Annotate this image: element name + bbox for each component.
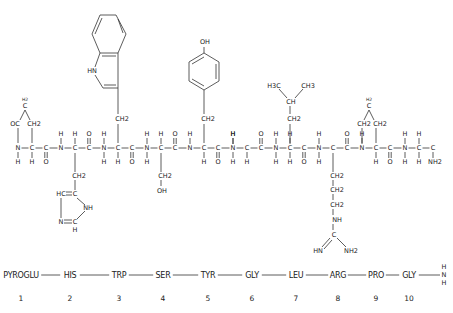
residue-ser: SER	[156, 271, 172, 280]
tyrosine-side-chain: CH2 OH	[189, 38, 219, 143]
ser-oh-label: OH	[157, 187, 167, 195]
arginine-side-chain: CH2 CH2 CH2 NH C HN NH2	[313, 153, 358, 255]
histidine-side-chain: CH2 HC C NH C H N	[56, 153, 93, 234]
backbone-atom-n: N	[102, 144, 107, 152]
hydrogen-atom: H	[274, 158, 279, 166]
backbone-atom-c: C	[331, 144, 336, 152]
pro-h2-label: H2	[366, 97, 372, 102]
tyr-oh-label: OH	[200, 38, 210, 46]
backbone-atom-n: N	[360, 144, 365, 152]
terminal-n: N	[442, 271, 447, 279]
hydrogen-atom: H	[188, 130, 193, 138]
arg-ch2-3-label: CH2	[330, 201, 344, 209]
terminal-h-bottom: H	[442, 279, 447, 287]
ser-ch2-label: CH2	[158, 172, 172, 180]
hydrogen-atom: H	[403, 130, 408, 138]
backbone-atom-c: C	[388, 144, 393, 152]
leu-ch2-label: CH2	[287, 115, 301, 123]
hydrogen-atom: H	[231, 130, 236, 138]
residue-number: 2	[68, 294, 73, 303]
peptide-structure-diagram: NCCNCCNCCNCCNCCNCCNCCNCCNCCNCCNH2HHHHHHH…	[0, 0, 453, 313]
backbone-atom-n: N	[317, 144, 322, 152]
pyroglu-ch2-label: CH2	[27, 120, 41, 128]
backbone-atom-c: C	[345, 144, 350, 152]
backbone-atom-n: N	[59, 144, 64, 152]
backbone-atom-c: C	[116, 144, 121, 152]
backbone-atom-c: C	[73, 144, 78, 152]
residue-arg: ARG	[330, 271, 346, 280]
leu-ch3-label: CH3	[301, 82, 315, 90]
pro-c-atom: C	[367, 102, 372, 110]
residue-number: 6	[250, 294, 255, 303]
hydrogen-atom: H	[274, 130, 279, 138]
hydrogen-atom: H	[102, 158, 107, 166]
leu-h3c-label: H3C	[267, 82, 281, 90]
c-terminal-amide: NH2	[428, 158, 442, 166]
hydrogen-atom: H	[102, 130, 107, 138]
hydrogen-atom: H	[145, 130, 150, 138]
arg-nh-label: NH	[332, 216, 342, 224]
backbone-atom-c: C	[245, 144, 250, 152]
residue-gly: GLY	[402, 271, 416, 280]
terminal-h-top: H	[442, 263, 447, 271]
his-ring-h-label: H	[73, 226, 78, 234]
his-nh-label: NH	[83, 204, 93, 212]
serine-side-chain: CH2 OH	[157, 153, 172, 195]
his-hc-label: HC	[56, 190, 66, 198]
trp-hn-label: HN	[87, 67, 97, 75]
backbone-atom-n: N	[274, 144, 279, 152]
trp-ch2-label: CH2	[115, 115, 129, 123]
hydrogen-atom: H	[374, 158, 379, 166]
arg-hn-label: HN	[313, 247, 323, 255]
pyroglu-c-atom: C	[23, 102, 28, 110]
backbone-atom-c: C	[44, 144, 49, 152]
proline-ring: C H2 CH2 CH2	[357, 97, 387, 144]
his-ch2-label: CH2	[72, 172, 86, 180]
hydrogen-atom: H	[288, 158, 293, 166]
pro-ch2-right-label: CH2	[373, 120, 387, 128]
residue-pro: PRO	[368, 271, 384, 280]
hydrogen-atom: H	[16, 158, 21, 166]
residue-tyr: TYR	[200, 271, 216, 280]
arg-nh2-label: NH2	[344, 247, 358, 255]
his-c2-label: C	[73, 218, 78, 226]
hydrogen-atom: H	[403, 158, 408, 166]
hydrogen-atom: H	[73, 130, 78, 138]
backbone-atom-c: C	[130, 144, 135, 152]
tryptophan-side-chain: CH2 HN	[87, 15, 129, 143]
carbonyl-oxygen: O	[258, 130, 263, 138]
residue-number: 3	[117, 294, 122, 303]
backbone-atom-c: C	[159, 144, 164, 152]
hydrogen-atom: H	[202, 158, 207, 166]
peptide-backbone: NCCNCCNCCNCCNCCNCCNCCNCCNCCNCCNH2HHHHHHH…	[16, 130, 442, 166]
carbonyl-oxygen: O	[43, 158, 48, 166]
backbone-atom-c: C	[216, 144, 221, 152]
residue-trp: TRP	[111, 271, 127, 280]
pyroglu-ring: C H2 OC CH2	[10, 97, 41, 144]
carbonyl-oxygen: O	[129, 158, 134, 166]
backbone-atom-n: N	[403, 144, 408, 152]
hydrogen-atom: H	[417, 130, 422, 138]
arg-ch2-2-label: CH2	[330, 186, 344, 194]
tyr-ch2-label: CH2	[201, 115, 215, 123]
residue-number: 4	[161, 294, 166, 303]
hydrogen-atom: H	[59, 130, 64, 138]
backbone-atom-c: C	[374, 144, 379, 152]
backbone-atom-c: C	[202, 144, 207, 152]
hydrogen-atom: H	[116, 158, 121, 166]
hydrogen-atom: H	[317, 130, 322, 138]
pyroglu-h2-label: H2	[22, 97, 28, 102]
backbone-atom-c: C	[431, 144, 436, 152]
residue-number: 8	[336, 294, 341, 303]
his-n-label: N	[59, 218, 64, 226]
residue-his: HIS	[64, 271, 77, 280]
residue-number: 7	[294, 294, 299, 303]
backbone-atom-n: N	[231, 144, 236, 152]
carbonyl-oxygen: O	[86, 130, 91, 138]
sequence-terminal-nh2: H N H	[442, 263, 447, 287]
backbone-atom-c: C	[259, 144, 264, 152]
backbone-atom-n: N	[16, 144, 21, 152]
hydrogen-atom: H	[317, 158, 322, 166]
residue-number: 9	[374, 294, 379, 303]
amino-acid-sequence: PYROGLU1HIS2TRP3SER4TYR5GLY6LEU7ARG8PRO9…	[3, 271, 440, 303]
